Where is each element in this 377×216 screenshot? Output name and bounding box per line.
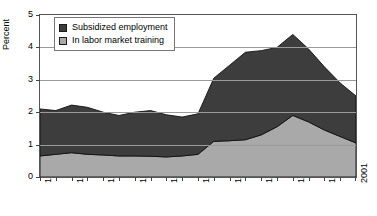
y-axis-tick-label: 0 bbox=[28, 171, 33, 181]
x-axis-tick bbox=[56, 177, 57, 181]
y-axis-tick-label: 3 bbox=[28, 74, 33, 84]
x-axis-tick bbox=[355, 177, 356, 181]
y-axis-tick-label: 4 bbox=[28, 41, 33, 51]
x-axis-tick bbox=[261, 177, 262, 181]
x-axis-tick bbox=[40, 177, 41, 181]
x-axis-tick bbox=[87, 177, 88, 181]
y-axis-title: Percent bbox=[1, 19, 11, 50]
x-axis-tick bbox=[166, 177, 167, 181]
x-axis-tick bbox=[340, 177, 341, 181]
x-axis-tick bbox=[103, 177, 104, 181]
x-axis-tick bbox=[72, 177, 73, 181]
legend-item: Subsidized employment bbox=[59, 21, 168, 34]
y-axis-tick bbox=[36, 80, 40, 81]
legend: Subsidized employmentIn labor market tra… bbox=[54, 17, 175, 51]
x-axis-tick bbox=[293, 177, 294, 181]
x-axis-tick bbox=[182, 177, 183, 181]
y-axis-tick-label: 5 bbox=[28, 9, 33, 19]
legend-swatch-icon bbox=[59, 37, 67, 45]
stacked-area-chart: Percent 012345 1981198319851987198919911… bbox=[0, 0, 377, 216]
x-axis-tick bbox=[119, 177, 120, 181]
y-axis-tick bbox=[36, 47, 40, 48]
x-axis-tick bbox=[230, 177, 231, 181]
y-axis-tick bbox=[36, 112, 40, 113]
y-axis-tick bbox=[36, 145, 40, 146]
x-axis-tick bbox=[324, 177, 325, 181]
x-axis-tick bbox=[198, 177, 199, 181]
x-axis-tick bbox=[309, 177, 310, 181]
gridline bbox=[40, 112, 356, 113]
x-axis-tick bbox=[214, 177, 215, 181]
legend-label: Subsidized employment bbox=[72, 23, 168, 32]
legend-swatch-icon bbox=[59, 24, 67, 32]
y-axis-tick-label: 1 bbox=[28, 139, 33, 149]
legend-item: In labor market training bbox=[59, 34, 168, 47]
x-axis-tick bbox=[277, 177, 278, 181]
x-axis-tick bbox=[245, 177, 246, 181]
y-axis-tick bbox=[36, 15, 40, 16]
gridline bbox=[40, 80, 356, 81]
x-axis-tick bbox=[135, 177, 136, 181]
legend-label: In labor market training bbox=[72, 36, 164, 45]
x-axis-tick-label: 2001 bbox=[359, 163, 369, 183]
y-axis-tick-label: 2 bbox=[28, 106, 33, 116]
x-axis-tick bbox=[151, 177, 152, 181]
gridline bbox=[40, 145, 356, 146]
